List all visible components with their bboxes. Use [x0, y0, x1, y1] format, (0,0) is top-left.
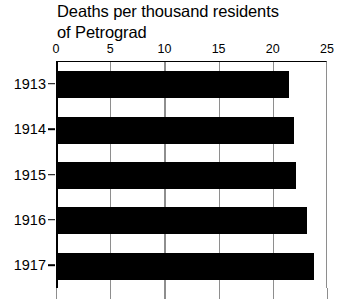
y-tick-mark-1916 [48, 219, 55, 221]
bottom-tick-25 [327, 288, 328, 299]
bottom-tick-15 [219, 288, 220, 299]
bottom-tick-0 [56, 288, 57, 299]
x-tick-label-0: 0 [53, 42, 60, 57]
y-tick-mark-1917 [48, 265, 55, 267]
y-tick-label-1915: 1915 [14, 166, 46, 183]
bottom-tick-20 [273, 288, 274, 299]
x-tick-label-25: 25 [320, 42, 334, 57]
bar-1916 [56, 207, 307, 234]
x-tick-label-10: 10 [157, 42, 171, 57]
bar-1914 [56, 117, 294, 144]
plot-area [56, 61, 327, 288]
bar-chart-figure: Deaths per thousand residents of Petrogr… [0, 0, 347, 299]
y-tick-label-1914: 1914 [14, 121, 46, 138]
y-tick-mark-1914 [48, 128, 55, 130]
bar-1913 [56, 71, 289, 98]
bar-1917 [56, 253, 314, 280]
y-axis-tick-labels: 19131914191519161917 [0, 61, 56, 288]
bottom-tick-5 [110, 288, 111, 299]
x-tick-label-5: 5 [107, 42, 114, 57]
y-tick-label-1916: 1916 [14, 211, 46, 228]
chart-title: Deaths per thousand residents of Petrogr… [57, 1, 347, 43]
y-tick-label-1913: 1913 [14, 75, 46, 92]
y-tick-mark-1913 [48, 83, 55, 85]
y-tick-label-1917: 1917 [14, 257, 46, 274]
y-tick-mark-1915 [48, 174, 55, 176]
bottom-tick-10 [164, 288, 165, 299]
bars-group [56, 62, 326, 288]
x-axis-bottom-tick-marks [56, 288, 327, 299]
x-tick-label-15: 15 [212, 42, 226, 57]
x-axis-tick-labels: 0510152025 [0, 42, 347, 58]
bar-1915 [56, 162, 296, 189]
x-tick-label-20: 20 [266, 42, 280, 57]
